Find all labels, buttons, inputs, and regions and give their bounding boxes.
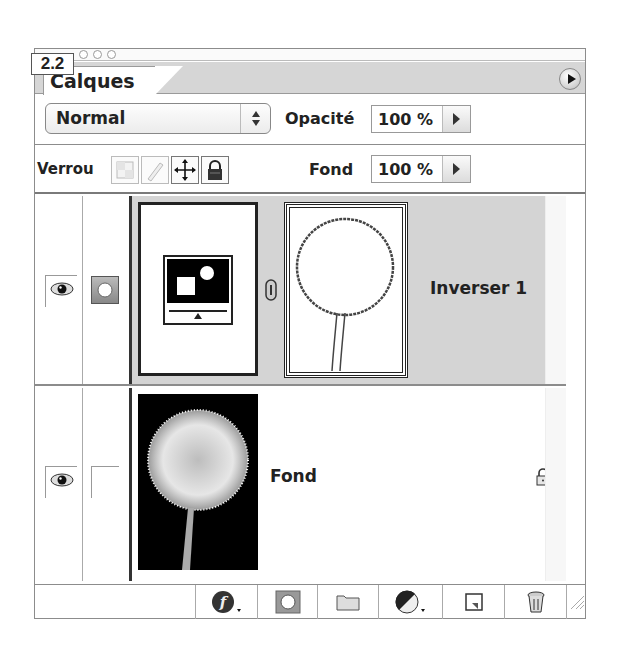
opacity-label: Opacité (285, 109, 354, 128)
resize-grip-icon (569, 594, 585, 610)
blend-row: Normal Opacité 100 % (35, 95, 585, 145)
layer-row-fond[interactable]: Fond (35, 388, 566, 581)
layer-style-button[interactable]: f (195, 585, 257, 619)
checker-square-icon (112, 157, 138, 183)
layers-list: Inverser 1 (35, 196, 585, 583)
zoom-window-button[interactable] (107, 50, 116, 59)
visibility-toggle[interactable] (45, 466, 77, 498)
layer-name[interactable]: Fond (270, 466, 317, 486)
layer-name[interactable]: Inverser 1 (430, 278, 527, 298)
fill-field[interactable]: 100 % (371, 155, 471, 183)
new-layer-button[interactable] (442, 585, 504, 619)
palette-menu-button[interactable] (559, 68, 581, 90)
new-layer-icon (463, 591, 485, 613)
invert-adjustment-icon (163, 255, 233, 327)
padlock-icon (202, 157, 228, 183)
new-adjustment-layer-button[interactable] (378, 585, 442, 619)
lock-label: Verrou (37, 160, 94, 178)
opacity-value: 100 % (378, 110, 433, 129)
fill-value: 100 % (378, 160, 433, 179)
eye-icon (50, 472, 74, 488)
layer-content: Fond (129, 388, 566, 581)
add-mask-button[interactable] (257, 585, 317, 619)
dandelion-mask-outline (287, 205, 401, 371)
resize-grip[interactable] (566, 585, 586, 619)
close-window-button[interactable] (79, 50, 88, 59)
layer-content: Inverser 1 (129, 196, 566, 384)
scrollbar-track[interactable] (545, 388, 566, 581)
blend-mode-select[interactable]: Normal (45, 103, 271, 134)
trash-icon (525, 590, 547, 614)
visibility-column (35, 196, 83, 384)
blend-mode-value: Normal (56, 108, 125, 128)
bottom-toolbar: f (35, 584, 585, 619)
lock-image-pixels-button[interactable] (141, 156, 169, 184)
layer-row-inverser-1[interactable]: Inverser 1 (35, 196, 566, 386)
lock-position-button[interactable] (171, 156, 199, 184)
adjustment-thumbnail[interactable] (138, 202, 258, 376)
folder-icon (335, 592, 361, 612)
mask-indicator-column (83, 196, 129, 384)
tab-strip: Calques (35, 62, 585, 94)
delete-layer-button[interactable] (504, 585, 566, 619)
mask-icon (92, 277, 118, 303)
title-bar (35, 49, 585, 61)
scrollbar-track[interactable] (545, 196, 566, 384)
visibility-toggle[interactable] (45, 275, 77, 307)
layer-mask-indicator[interactable] (91, 276, 119, 304)
opacity-field[interactable]: 100 % (371, 105, 471, 133)
dandelion-photo (138, 394, 258, 570)
figure-label: 2.2 (31, 53, 74, 75)
fill-slider-button[interactable] (442, 156, 470, 182)
mask-indicator-column (83, 388, 129, 581)
fx-icon: f (210, 589, 244, 615)
opacity-slider-button[interactable] (442, 106, 470, 132)
eye-icon (50, 281, 74, 297)
minimize-window-button[interactable] (93, 50, 102, 59)
link-icon[interactable] (265, 279, 277, 301)
lock-transparent-pixels-button[interactable] (111, 156, 139, 184)
move-arrows-icon (172, 157, 198, 183)
layer-thumbnail[interactable] (138, 394, 258, 570)
visibility-column (35, 388, 83, 581)
select-arrows-icon (240, 104, 270, 133)
brush-icon (142, 157, 168, 183)
lock-all-button[interactable] (201, 156, 229, 184)
mask-thumbnail[interactable] (284, 202, 408, 378)
half-circle-icon (394, 589, 428, 615)
mask-icon (274, 590, 302, 614)
layer-link-slot[interactable] (91, 466, 119, 498)
new-group-button[interactable] (317, 585, 378, 619)
lock-row: Verrou Fond 100 % (35, 146, 585, 194)
fill-label: Fond (309, 160, 353, 179)
layers-panel: 2.2 Calques Normal Opacité 100 % Verrou (34, 48, 586, 619)
